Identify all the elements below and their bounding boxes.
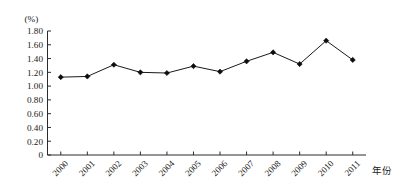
y-axis-unit-label: (%) <box>25 14 39 24</box>
x-axis-tick-label: 2008 <box>263 158 283 178</box>
y-axis-tick-label: 0.60 <box>27 109 43 119</box>
y-axis-tick-label: 0.40 <box>27 123 43 133</box>
chart-axes <box>48 31 367 155</box>
y-axis-tick-label: 0.20 <box>27 137 43 147</box>
x-axis-tick-label: 2009 <box>289 158 309 178</box>
data-point-marker <box>191 64 196 69</box>
x-axis-tick-label: 2006 <box>210 158 230 178</box>
x-axis-tick-label: 2007 <box>236 158 256 178</box>
data-point-marker <box>164 70 169 75</box>
y-axis-tick-label: 1.00 <box>27 81 43 91</box>
x-axis-title: 年份 <box>372 165 392 176</box>
data-point-marker <box>85 74 90 79</box>
y-axis-tick-label: 1.60 <box>27 40 43 50</box>
x-axis-tick-label: 2001 <box>77 158 97 178</box>
x-axis-tick-label: 2004 <box>157 158 177 178</box>
x-axis-tick-label: 2003 <box>130 158 150 178</box>
data-point-marker <box>271 50 276 55</box>
x-axis-tick-label: 2002 <box>103 158 123 178</box>
y-axis-tick-label: 1.80 <box>27 26 43 36</box>
y-axis-tick-label: 1.20 <box>27 68 43 78</box>
y-axis-tick-label: 1.40 <box>27 54 43 64</box>
data-series-line <box>61 41 353 78</box>
data-point-marker <box>58 75 63 80</box>
data-point-marker <box>138 70 143 75</box>
y-axis-tick-label: 0.80 <box>27 95 43 105</box>
y-axis-tick-label: 0 <box>38 150 43 160</box>
line-chart: (%)1.801.601.401.201.000.800.600.400.200… <box>0 0 403 192</box>
data-point-marker <box>111 62 116 67</box>
data-point-marker <box>217 69 222 74</box>
x-axis-tick-label: 2011 <box>343 158 363 178</box>
x-axis-tick-label: 2010 <box>316 158 336 178</box>
x-axis-tick-label: 2000 <box>50 158 70 178</box>
x-axis-tick-label: 2005 <box>183 158 203 178</box>
data-point-marker <box>244 59 249 64</box>
chart-container: (%)1.801.601.401.201.000.800.600.400.200… <box>0 0 403 192</box>
